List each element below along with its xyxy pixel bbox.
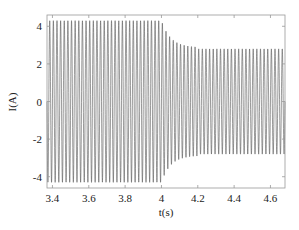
y-axis-label: I(A) [6,92,19,111]
y-tick-label: -4 [33,171,43,183]
x-tick-label: 4.6 [264,192,278,204]
current-series-line [47,21,285,183]
plot-area [47,21,285,183]
current-waveform-chart: 3.43.63.844.24.44.6 -4-2024 t(s) I(A) [0,0,299,230]
y-tick-label: 2 [37,58,43,70]
x-axis-label: t(s) [159,206,174,219]
x-tick-label: 4.4 [227,192,241,204]
x-tick-label: 4.2 [191,192,205,204]
y-tick-label: -2 [33,133,42,145]
x-tick-label: 3.4 [46,192,60,204]
x-tick-label: 4 [159,192,165,204]
x-tick-label: 3.6 [82,192,96,204]
x-tick-label: 3.8 [118,192,132,204]
y-tick-label: 0 [37,96,43,108]
y-tick-label: 4 [37,20,43,32]
